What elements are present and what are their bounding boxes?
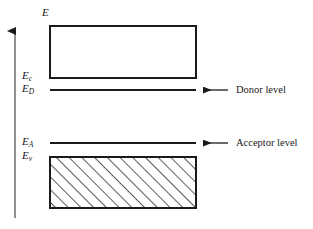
acceptor-level-subscript: A bbox=[29, 140, 34, 149]
conduction-band-edge-symbol: E bbox=[22, 69, 29, 81]
donor-level-label: ED bbox=[22, 83, 34, 94]
donor-level-symbol: E bbox=[22, 82, 29, 94]
acceptor-level-label: EA bbox=[22, 136, 33, 147]
valence-band-rect bbox=[50, 157, 196, 208]
acceptor-annotation-text: Acceptor level bbox=[236, 138, 298, 149]
conduction-band-edge-subscript: c bbox=[29, 74, 32, 83]
band-diagram-canvas bbox=[0, 0, 313, 229]
conduction-band-edge-label: Ec bbox=[22, 70, 32, 81]
valence-band-edge-label: Ev bbox=[22, 150, 32, 161]
conduction-band-rect bbox=[50, 26, 196, 78]
donor-level-subscript: D bbox=[29, 87, 34, 96]
energy-axis-label: E bbox=[42, 7, 49, 18]
acceptor-level-symbol: E bbox=[22, 135, 29, 147]
valence-band-edge-symbol: E bbox=[22, 149, 29, 161]
band-diagram-figure: E Ec ED EA Ev Donor level Acceptor level bbox=[0, 0, 313, 229]
valence-band-edge-subscript: v bbox=[29, 154, 32, 163]
donor-annotation-text: Donor level bbox=[236, 85, 286, 96]
